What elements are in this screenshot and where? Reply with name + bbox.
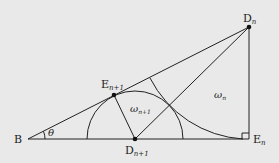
point-Dn <box>247 25 252 30</box>
line-B-Dn <box>28 27 249 139</box>
label-En1: En+1 <box>101 78 124 92</box>
angle-theta-arc <box>44 132 46 140</box>
point-Dn1 <box>133 137 138 142</box>
line-En1-Dn1 <box>114 95 135 139</box>
line-Dn-Dn1 <box>135 27 249 139</box>
label-omega-n: ωn <box>214 89 226 101</box>
label-omega-n1: ωn+1 <box>130 103 151 115</box>
arc-omega-n <box>150 78 243 139</box>
label-Dn1: Dn+1 <box>125 144 149 158</box>
label-theta: θ <box>48 127 54 138</box>
right-angle-mark <box>242 133 249 139</box>
label-B: B <box>14 133 22 146</box>
point-En1 <box>112 93 117 98</box>
label-En: En <box>253 133 266 147</box>
semicircle-omega-n1 <box>87 91 183 139</box>
label-Dn: Dn <box>243 12 257 26</box>
geometry-diagram: B Dn En Dn+1 En+1 θ ωn ωn+1 <box>0 0 279 163</box>
